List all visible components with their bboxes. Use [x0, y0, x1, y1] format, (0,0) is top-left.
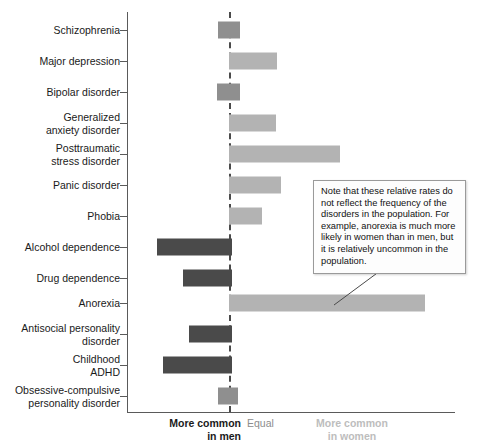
bar-panic-disorder[interactable] [229, 177, 281, 194]
bar-alcohol-dependence[interactable] [157, 239, 232, 256]
axis-label-women-line2: in women [287, 430, 417, 443]
bar-posttraumatic-stress-disorder[interactable] [229, 146, 340, 163]
axis-label-more-common-in-women: More common in women [287, 417, 417, 442]
diverging-bar-chart: SchizophreniaMajor depressionBipolar dis… [0, 0, 480, 445]
y-axis-line [127, 12, 128, 412]
y-axis-tick [120, 365, 127, 366]
annotation-callout: Note that these relative rates do not re… [313, 180, 466, 274]
y-axis-tick [120, 61, 127, 62]
bar-anorexia[interactable] [229, 295, 425, 312]
y-axis-tick [120, 30, 127, 31]
y-axis-tick [120, 216, 127, 217]
category-label-antisocial-personality-disorder: Antisocial personalitydisorder [2, 322, 120, 347]
category-label-panic-disorder: Panic disorder [2, 179, 120, 192]
bar-phobia[interactable] [229, 208, 262, 225]
bar-drug-dependence[interactable] [183, 270, 232, 287]
y-axis-tick [120, 334, 127, 335]
category-label-group: SchizophreniaMajor depressionBipolar dis… [0, 0, 120, 445]
y-axis-tick [120, 247, 127, 248]
y-axis-tick [120, 185, 127, 186]
axis-label-women-line1: More common [287, 417, 417, 430]
axis-label-more-common-in-men: More common in men [131, 417, 241, 442]
category-label-major-depression: Major depression [2, 55, 120, 68]
axis-label-equal: Equal [247, 417, 274, 430]
category-label-obsessive-compulsive-personality-disorder: Obsessive-compulsivepersonality disorder [2, 384, 120, 409]
axis-label-men-line1: More common [131, 417, 241, 430]
annotation-text: Note that these relative rates do not re… [321, 186, 455, 266]
category-label-childhood-adhd: ChildhoodADHD [2, 353, 120, 378]
y-axis-tick [120, 396, 127, 397]
category-label-schizophrenia: Schizophrenia [2, 24, 120, 37]
category-label-generalized-anxiety-disorder: Generalizedanxiety disorder [2, 111, 120, 136]
category-label-drug-dependence: Drug dependence [2, 272, 120, 285]
bar-generalized-anxiety-disorder[interactable] [229, 115, 276, 132]
category-label-anorexia: Anorexia [2, 297, 120, 310]
bar-obsessive-compulsive-personality-disorder[interactable] [218, 388, 238, 405]
bar-antisocial-personality-disorder[interactable] [189, 326, 232, 343]
y-axis-tick [120, 303, 127, 304]
category-label-alcohol-dependence: Alcohol dependence [2, 241, 120, 254]
y-axis-tick [120, 278, 127, 279]
y-axis-tick [120, 123, 127, 124]
bar-major-depression[interactable] [229, 53, 277, 70]
category-label-posttraumatic-stress-disorder: Posttraumaticstress disorder [2, 142, 120, 167]
bar-bipolar-disorder[interactable] [217, 84, 240, 101]
bar-schizophrenia[interactable] [218, 22, 240, 39]
axis-label-men-line2: in men [131, 430, 241, 443]
category-label-bipolar-disorder: Bipolar disorder [2, 86, 120, 99]
category-label-phobia: Phobia [2, 210, 120, 223]
y-axis-tick [120, 92, 127, 93]
bar-childhood-adhd[interactable] [163, 357, 232, 374]
y-axis-tick [120, 154, 127, 155]
x-axis-line [127, 412, 455, 413]
